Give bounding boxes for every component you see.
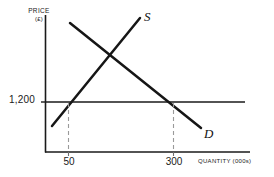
y-axis-unit: (£) xyxy=(22,16,56,22)
demand-curve xyxy=(70,23,201,128)
x-axis-tick-label-50: 50 xyxy=(59,157,79,168)
y-axis-tick-label-1200: 1,200 xyxy=(9,95,35,106)
x-axis-tick-label-300: 300 xyxy=(161,157,187,168)
x-axis-title: QUANTITY (000s) xyxy=(198,158,251,164)
supply-curve-label: S xyxy=(144,10,151,24)
supply-curve xyxy=(52,18,140,126)
demand-curve-label: D xyxy=(204,127,213,141)
chart-plot-area xyxy=(0,0,274,177)
supply-demand-diagram: PRICE (£) 1,200 50 300 QUANTITY (000s) S… xyxy=(0,0,274,177)
y-axis-title: PRICE xyxy=(22,8,56,15)
